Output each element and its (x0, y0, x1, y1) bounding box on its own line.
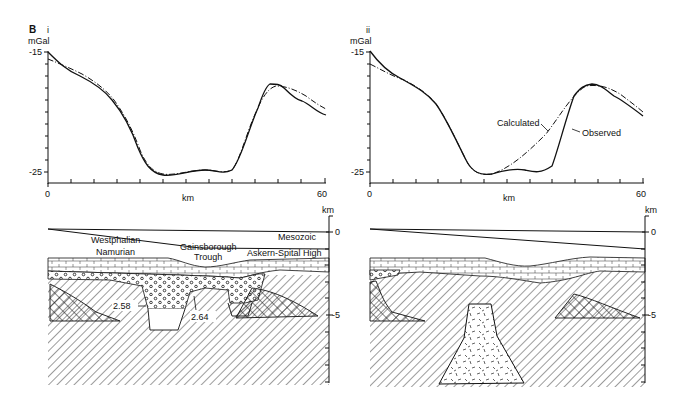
panel-i-x-tick-0: 0 (45, 189, 50, 199)
panel-i-cross-section: km 0 -5 Westphalian Namurian Gainsboroug… (48, 205, 340, 385)
panel-i-depth-tick-5: -5 (332, 310, 340, 320)
label-density-2-64: 2.64 (191, 312, 209, 322)
arrow-calculated (541, 124, 548, 131)
panel-ii-x-label: km (503, 193, 515, 203)
panel-i-x-tick-60: 60 (317, 189, 327, 199)
panel-ii-observed-curve (370, 51, 643, 174)
panel-ii-x-tick-60: 60 (636, 189, 646, 199)
panel-i-observed-curve (48, 52, 326, 175)
panel-ii-cross-section: km 0 -5 (370, 205, 657, 387)
annotation-observed: Observed (582, 128, 621, 138)
panel-i-depth-tick-0: 0 (335, 227, 340, 237)
panel-ii-x-tick-0: 0 (367, 189, 372, 199)
panel-ii-depth-tick-5: -5 (648, 310, 656, 320)
label-namurian: Namurian (96, 247, 135, 257)
label-density-2-58: 2.58 (113, 301, 131, 311)
panel-ii-surface-lines (370, 229, 645, 249)
panel-ii: ii mGal -15 -25 0 60 km Calculated Obser… (350, 25, 657, 387)
panel-i-x-label: km (182, 193, 194, 203)
arrow-observed (572, 129, 580, 132)
label-askern-spital-high: Askern-Spital High (247, 248, 322, 258)
label-trough: Trough (194, 252, 222, 262)
figure: B i mGal -15 -25 0 60 km (0, 0, 691, 412)
panel-i: B i mGal -15 -25 0 60 km (28, 24, 340, 385)
panel-i-y-tick-bottom: -25 (29, 167, 42, 177)
label-westphalian: Westphalian (91, 235, 140, 245)
annotation-calculated: Calculated (497, 118, 540, 128)
panel-i-calculated-curve (48, 59, 326, 174)
panel-ii-y-unit: mGal (350, 36, 372, 46)
panel-i-y-tick-top: -15 (29, 47, 42, 57)
panel-ii-depth-unit: km (645, 205, 657, 215)
panel-ii-label: ii (366, 25, 370, 35)
label-mesozoic: Mesozoic (278, 232, 317, 242)
panel-i-label: i (47, 25, 49, 35)
panel-ii-y-tick-bottom: -25 (351, 167, 364, 177)
figure-panel-letter: B (29, 24, 36, 35)
panel-i-trough-block-2-58 (148, 309, 185, 330)
panel-i-gravity-axes (44, 51, 326, 187)
panel-ii-y-tick-top: -15 (351, 47, 364, 57)
panel-i-y-unit: mGal (28, 36, 50, 46)
panel-ii-depth-tick-0: 0 (651, 227, 656, 237)
label-gainsborough: Gainsborough (180, 242, 237, 252)
panel-i-depth-unit: km (322, 205, 334, 215)
